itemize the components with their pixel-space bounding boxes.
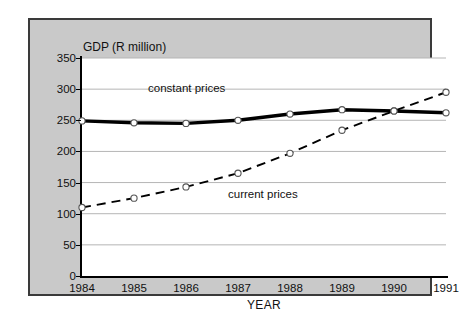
data-point-marker <box>443 89 449 95</box>
data-series-layer <box>82 58 446 276</box>
plot-area <box>82 58 446 276</box>
x-axis-tick-label: 1986 <box>163 282 209 294</box>
y-axis-tick-label: 0 <box>46 270 76 282</box>
y-axis-tick-label: 50 <box>46 239 76 251</box>
y-axis-tick-mark <box>76 245 81 246</box>
y-axis-tick-label: 100 <box>46 208 76 220</box>
x-axis-tick-label: 1989 <box>319 282 365 294</box>
y-axis-tick-mark <box>76 151 81 152</box>
data-point-marker <box>339 127 345 133</box>
data-point-marker <box>287 150 293 156</box>
y-axis-tick-label: 250 <box>46 114 76 126</box>
series-annotation-constant-prices: constant prices <box>148 82 225 94</box>
y-axis-tick-label: 350 <box>46 52 76 64</box>
data-point-marker <box>131 120 137 126</box>
data-point-marker <box>235 117 241 123</box>
y-axis-tick-label: 300 <box>46 83 76 95</box>
y-axis-tick-mark <box>76 276 81 277</box>
y-axis-tick-mark <box>76 183 81 184</box>
data-point-marker <box>79 204 85 210</box>
data-point-marker <box>391 108 397 114</box>
series-annotation-current-prices: current prices <box>228 188 298 200</box>
y-axis-tick-mark <box>76 89 81 90</box>
x-axis-tick-label: 1990 <box>371 282 417 294</box>
y-axis-tick-label: 150 <box>46 177 76 189</box>
y-axis-title: GDP (R million) <box>83 40 166 54</box>
chart-panel: GDP (R million) 050100150200250300350 co… <box>28 18 432 296</box>
data-point-marker <box>235 170 241 176</box>
x-axis-tick-label: 1987 <box>215 282 261 294</box>
x-axis-tick-label: 1985 <box>111 282 157 294</box>
data-point-marker <box>339 107 345 113</box>
x-axis-tick-label: 1984 <box>59 282 105 294</box>
y-axis-tick-mark <box>76 214 81 215</box>
x-axis-line <box>80 276 448 278</box>
data-point-marker <box>443 110 449 116</box>
data-point-marker <box>287 111 293 117</box>
y-axis-tick-label: 200 <box>46 145 76 157</box>
data-point-marker <box>183 184 189 190</box>
data-point-marker <box>131 195 137 201</box>
x-axis-tick-label: 1991 <box>423 282 463 294</box>
data-point-marker <box>183 120 189 126</box>
x-axis-title: YEAR <box>82 298 446 312</box>
x-axis-tick-label: 1988 <box>267 282 313 294</box>
y-axis-tick-labels: 050100150200250300350 <box>40 58 76 276</box>
y-axis-tick-mark <box>76 58 81 59</box>
y-axis-tick-mark <box>76 120 81 121</box>
